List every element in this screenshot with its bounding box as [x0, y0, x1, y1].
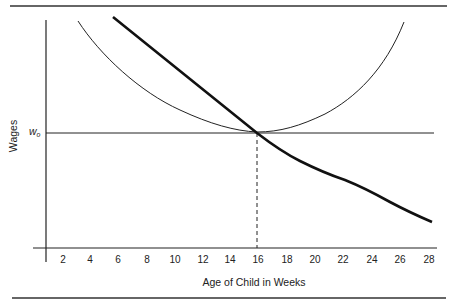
tick-18: 18	[281, 254, 293, 265]
tick-8: 8	[144, 254, 150, 265]
tick-12: 12	[197, 254, 209, 265]
tick-20: 20	[309, 254, 321, 265]
u-curve	[78, 21, 404, 132]
tick-24: 24	[366, 254, 378, 265]
y-axis-label: Wages	[7, 120, 19, 152]
tick-16: 16	[252, 254, 264, 265]
x-axis-label: Age of Child in Weeks	[202, 276, 305, 288]
w0-label: wo	[29, 125, 41, 138]
tick-28: 28	[423, 254, 435, 265]
wage-curve	[113, 17, 432, 222]
tick-6: 6	[115, 254, 121, 265]
tick-14: 14	[224, 254, 236, 265]
x-tick-labels: 2 4 6 8 10 12 14 16 18 20 22 24 26 28	[60, 254, 435, 265]
tick-10: 10	[169, 254, 181, 265]
tick-4: 4	[87, 254, 93, 265]
tick-2: 2	[60, 254, 66, 265]
chart-figure: Wages wo 2 4 6 8 10 12 14 16 18 20 22 24…	[0, 0, 453, 303]
tick-26: 26	[394, 254, 406, 265]
tick-22: 22	[337, 254, 349, 265]
